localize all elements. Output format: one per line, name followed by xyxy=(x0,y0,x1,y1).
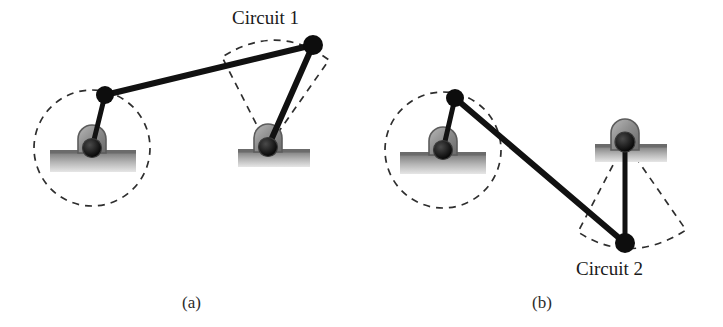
crank-pin-joint-a xyxy=(96,86,114,104)
ground-pivot-pin-right-b xyxy=(615,132,635,152)
linkage-diagram: Circuit 1 (a) xyxy=(0,0,723,327)
coupler-rocker-joint-a xyxy=(303,35,323,55)
ground-pivot-pin-left-b xyxy=(434,141,453,160)
coupler-rocker-joint-b xyxy=(615,233,635,253)
crank-pin-joint-b xyxy=(446,89,464,107)
panel-a-caption: (a) xyxy=(182,293,201,312)
ground-pivot-pin-left-a xyxy=(83,139,102,158)
panel-b-caption: (b) xyxy=(532,293,552,312)
ground-pivot-pin-right-a xyxy=(259,138,278,157)
figure-container: Circuit 1 (a) xyxy=(0,0,723,327)
circuit-1-label: Circuit 1 xyxy=(232,7,299,28)
circuit-2-label: Circuit 2 xyxy=(576,258,643,279)
